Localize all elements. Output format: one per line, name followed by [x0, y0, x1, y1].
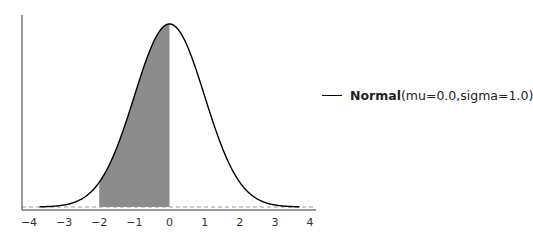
x-tick-label: 1: [201, 216, 208, 229]
x-tick-labels: −4−3−2−101234: [21, 216, 314, 229]
x-tick-label: −4: [21, 216, 37, 229]
x-tick-label: −2: [91, 216, 107, 229]
x-tick-label: 4: [307, 216, 314, 229]
x-tick-label: −1: [126, 216, 142, 229]
x-tick-label: 2: [236, 216, 243, 229]
x-tick-label: −3: [56, 216, 72, 229]
x-tick-label: 0: [166, 216, 173, 229]
legend: Normal (mu=0.0,sigma=1.0): [322, 88, 533, 103]
legend-series-name: Normal: [350, 88, 401, 103]
shaded-area: [99, 24, 169, 207]
legend-series-params: (mu=0.0,sigma=1.0): [401, 88, 533, 103]
legend-line-icon: [322, 95, 342, 96]
x-tick-label: 3: [271, 216, 278, 229]
